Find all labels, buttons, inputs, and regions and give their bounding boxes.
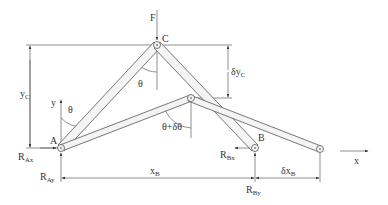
point-c-label: C: [162, 33, 169, 44]
link-ac: [58, 42, 160, 151]
link-cb: [154, 42, 258, 151]
theta-label: θ: [138, 78, 143, 89]
point-b-label: B: [258, 132, 265, 143]
y-axis-label: y: [51, 97, 56, 108]
point-a-label: A: [50, 135, 58, 146]
xb-label: xB: [150, 165, 160, 178]
rax-label: RAx: [18, 151, 34, 164]
rbx-label: RBx: [220, 149, 235, 162]
mechanism-diagram: F C A B θ θ θ+δθ y x yC δyC xB δxB RAx R…: [0, 0, 388, 205]
x-axis-label: x: [354, 155, 359, 166]
force-label: F: [150, 12, 156, 23]
theta-a-label: θ: [68, 104, 73, 115]
rby-label: RBy: [246, 184, 261, 197]
yc-label: yC: [20, 88, 30, 101]
theta-delta-label: θ+δθ: [162, 121, 182, 132]
delta-xb-label: δxB: [281, 165, 296, 178]
delta-yc-label: δyC: [231, 66, 246, 79]
ray-label: RAy: [40, 171, 55, 184]
